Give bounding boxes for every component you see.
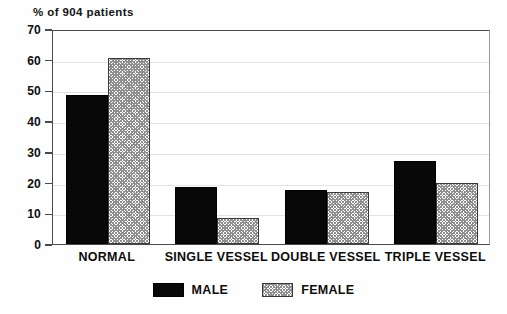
x-axis-label-single-vessel: SINGLE VESSEL bbox=[165, 250, 268, 264]
y-axis-tick bbox=[45, 152, 52, 153]
bar-triple-vessel-male bbox=[394, 161, 436, 244]
bar-double-vessel-female bbox=[327, 192, 369, 244]
bar-single-vessel-female bbox=[217, 218, 259, 244]
y-axis-tick bbox=[45, 60, 52, 61]
y-axis-tick-label: 0 bbox=[1, 238, 41, 252]
bar-normal-male bbox=[66, 95, 108, 244]
y-axis-tick-label: 40 bbox=[1, 115, 41, 129]
chart-legend: MALEFEMALE bbox=[0, 283, 507, 297]
bar-triple-vessel-female bbox=[436, 183, 478, 244]
y-axis-tick bbox=[45, 244, 52, 245]
bar-double-vessel-male bbox=[285, 190, 327, 244]
plot-area bbox=[52, 30, 490, 245]
solid-black-swatch bbox=[153, 283, 184, 297]
legend-entry-male: MALE bbox=[153, 283, 229, 297]
y-axis-tick bbox=[45, 183, 52, 184]
y-axis-tick bbox=[45, 91, 52, 92]
bar-single-vessel-male bbox=[175, 187, 217, 244]
hatched-gray-swatch bbox=[262, 283, 293, 297]
y-axis-tick bbox=[45, 121, 52, 122]
x-axis-label-double-vessel: DOUBLE VESSEL bbox=[271, 250, 380, 264]
x-axis-label-normal: NORMAL bbox=[78, 250, 135, 264]
y-axis-tick bbox=[45, 214, 52, 215]
y-axis-tick-label: 60 bbox=[1, 54, 41, 68]
y-axis-tick-label: 20 bbox=[1, 177, 41, 191]
y-axis-tick-label: 50 bbox=[1, 84, 41, 98]
legend-label-female: FEMALE bbox=[301, 283, 354, 297]
bar-chart: % of 904 patients 010203040506070 NORMAL… bbox=[0, 0, 507, 314]
y-axis-tick-label: 10 bbox=[1, 207, 41, 221]
y-axis-tick bbox=[45, 29, 52, 30]
bar-normal-female bbox=[108, 58, 150, 244]
y-axis-tick-label: 30 bbox=[1, 146, 41, 160]
legend-label-male: MALE bbox=[192, 283, 229, 297]
x-axis-label-triple-vessel: TRIPLE VESSEL bbox=[385, 250, 486, 264]
y-axis-tick-label: 70 bbox=[1, 23, 41, 37]
chart-title: % of 904 patients bbox=[33, 6, 134, 18]
legend-entry-female: FEMALE bbox=[262, 283, 354, 297]
